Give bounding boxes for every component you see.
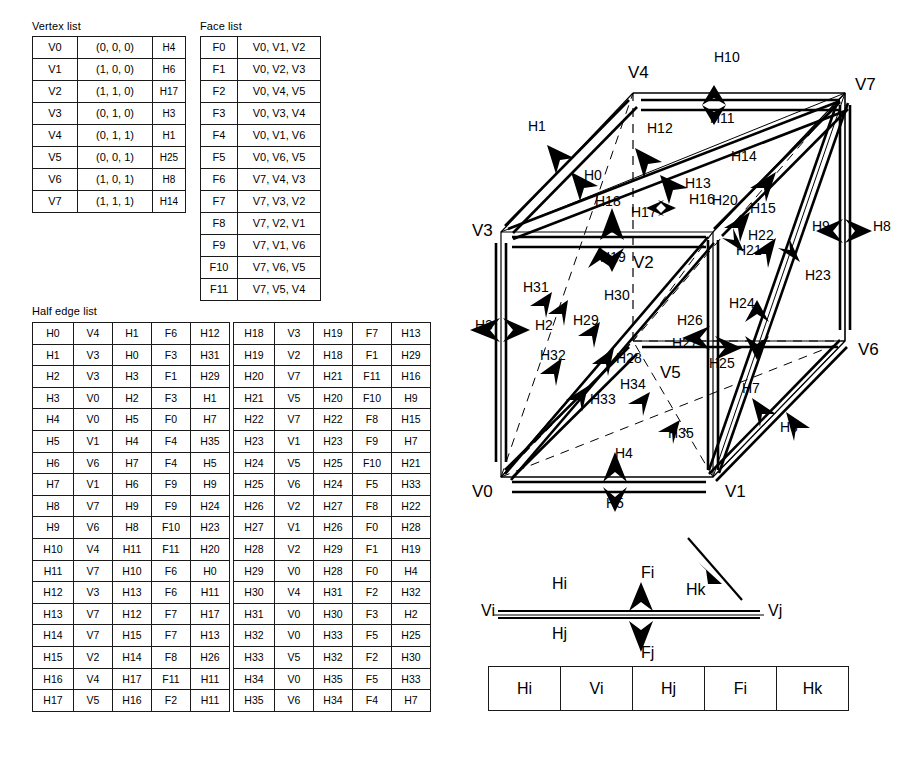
legend-labels: ViVjHiHkFiHjFj	[481, 564, 782, 661]
cube-halfedge-label: H13	[685, 175, 711, 191]
cube-vertex-label: V2	[633, 253, 654, 272]
cube-halfedge-label: H22	[748, 227, 774, 243]
cube-halfedge-label: H3	[475, 317, 493, 333]
cube-halfedge-label: H23	[805, 267, 831, 283]
cube-halfedge-label: H31	[523, 279, 549, 295]
legend-label: Hk	[686, 581, 707, 598]
cube-halfedge-label: H19	[600, 249, 626, 265]
cube-halfedge-label: H35	[668, 425, 694, 441]
cube-vertex-label: V6	[858, 340, 879, 359]
cube-halfedge-label: H11	[710, 110, 735, 126]
cube-halfedge-label: H34	[620, 376, 646, 392]
cube-halfedge-label: H30	[604, 287, 630, 303]
legend-label: Hj	[552, 625, 567, 642]
cube-halfedge-label: H1	[528, 118, 546, 134]
cube-halfedge-label: H16	[689, 191, 715, 207]
cube-halfedge-label: H2	[535, 317, 553, 333]
cube-halfedge-label: H17	[631, 204, 657, 220]
cube-vertex-label: V4	[628, 63, 649, 82]
cube-halfedge-label: H26	[677, 312, 703, 328]
cube-halfedge-label: H15	[750, 200, 776, 216]
cube-vertex-label: V1	[725, 482, 746, 501]
direction-arrows	[470, 85, 872, 512]
cube-drawing: V4V7V3V2V6V5V0V1 H10H1H12H11H14H0H13H16H…	[0, 0, 921, 758]
cube-vertex-label: V7	[855, 75, 876, 94]
cube-halfedge-label: H21	[736, 242, 762, 258]
cube-halfedge-label: H7	[742, 380, 760, 396]
legend-label: Fi	[641, 564, 654, 581]
cube-halfedge-label: H10	[714, 49, 740, 65]
cube-halfedge-label: H4	[615, 445, 633, 461]
cube-halfedge-label: H6	[780, 419, 798, 435]
cube-halfedge-label: H25	[709, 355, 735, 371]
legend-sketch	[494, 538, 764, 652]
cube-halfedge-label: H29	[573, 312, 599, 328]
cube-vertex-label: V5	[660, 363, 681, 382]
cube-halfedge-label: H24	[729, 295, 755, 311]
cube-halfedge-label: H18	[595, 193, 621, 209]
cube-halfedge-label: H0	[584, 167, 602, 183]
diagram-canvas: Vertex list Face list Half edge list V0(…	[0, 0, 921, 758]
legend-label: Vj	[768, 602, 782, 619]
cube-halfedge-label: H9	[812, 218, 830, 234]
cube-halfedge-label: H12	[647, 120, 673, 136]
cube-halfedge-label: H20	[712, 192, 738, 208]
cube-vertex-label: V0	[472, 482, 493, 501]
cube-halfedge-label: H33	[590, 391, 616, 407]
cube-halfedge-label: H8	[873, 218, 891, 234]
cube-halfedge-label: H14	[731, 148, 757, 164]
cube-halfedge-label: H28	[616, 350, 642, 366]
cube-halfedge-label: H32	[540, 347, 566, 363]
cube-halfedge-label: H5	[606, 495, 624, 511]
cube-halfedge-label: H27	[672, 335, 698, 351]
legend-label: Vi	[481, 602, 495, 619]
legend-label: Hi	[552, 575, 567, 592]
cube-vertex-label: V3	[472, 221, 493, 240]
legend-label: Fj	[641, 644, 654, 661]
